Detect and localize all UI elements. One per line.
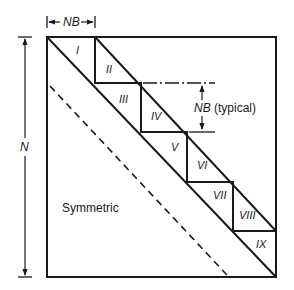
band-upper-diagonal [95, 37, 276, 231]
nb-typical-label: NB (typical) [194, 102, 256, 114]
matrix-diagram [0, 0, 294, 290]
block-label-iv: IV [151, 111, 161, 122]
block-label-vii: VII [213, 190, 226, 201]
nb-typical-label-suffix: (typical) [211, 101, 256, 115]
main-diagonal [47, 37, 276, 277]
symmetric-label: Symmetric [62, 202, 119, 214]
block-label-i: I [76, 45, 79, 56]
block-label-viii: VIII [239, 210, 256, 221]
block-label-ii: II [106, 64, 112, 75]
nb-top-label: NB [63, 16, 80, 28]
nb-typical-label-nb: NB [194, 101, 211, 115]
block-label-v: V [171, 142, 178, 153]
block-label-ix: IX [256, 239, 266, 250]
block-label-vi: VI [197, 160, 207, 171]
block-label-iii: III [119, 94, 128, 105]
n-side-label: N [20, 141, 29, 153]
